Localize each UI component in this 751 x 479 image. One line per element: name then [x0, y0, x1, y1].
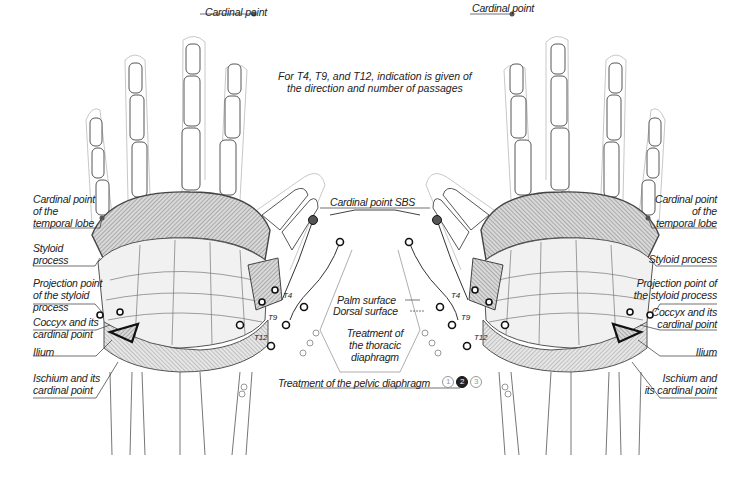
pelvic-diaphragm-label: Treatment of the pelvic diaphragm	[278, 377, 430, 389]
left-t9-label: T9	[268, 312, 277, 324]
right-temporal-lobe-dot	[646, 216, 651, 221]
step-3-badge: 3	[470, 376, 482, 388]
left-projection-label: Projection point of the styloid process	[33, 277, 102, 313]
left-temporal-lobe-dot	[100, 216, 105, 221]
left-styloid-label: Styloid process	[33, 242, 68, 266]
left-hand	[86, 36, 325, 455]
right-t4-label: T4	[451, 290, 460, 302]
diagram-canvas: For T4, T9, and T12, indication is given…	[0, 0, 751, 479]
right-ilium-label: Ilium	[696, 346, 717, 358]
right-styloid-label: Styloid process	[649, 253, 717, 265]
right-t9-label: T9	[461, 312, 470, 324]
right-coccyx-label: Coccyx and its cardinal point	[652, 306, 717, 330]
right-t12-label: T12	[474, 332, 487, 344]
left-coccyx-label: Coccyx and its cardinal point	[33, 316, 98, 340]
sbs-label: Cardinal point SBS	[330, 196, 415, 208]
right-projection-label: Projection point of the styloid process	[634, 277, 717, 301]
left-cardinal-point-label: Cardinal point	[205, 6, 267, 18]
pelvic-steps: 1 2 3	[442, 376, 482, 388]
left-temporal-lobe-label: Cardinal point of the temporal lobe	[33, 193, 95, 229]
right-ischium-label: Ischium and its cardinal point	[645, 372, 717, 396]
left-ilium-label: Ilium	[33, 346, 54, 358]
dorsal-surface-label: Dorsal surface	[333, 305, 398, 317]
step-1-badge: 1	[442, 376, 454, 388]
left-t4-label: T4	[283, 290, 292, 302]
left-ischium-label: Ischium and its cardinal point	[33, 372, 100, 396]
right-cardinal-point-label: Cardinal point	[472, 2, 534, 14]
right-temporal-lobe-label: Cardinal point of the temporal lobe	[655, 193, 717, 229]
right-hand	[426, 36, 665, 455]
instruction-note: For T4, T9, and T12, indication is given…	[278, 70, 472, 94]
sbs-point-right	[433, 216, 442, 225]
left-t12-label: T12	[254, 332, 267, 344]
sbs-point-left	[309, 216, 318, 225]
instruction-line-1: For T4, T9, and T12, indication is given…	[278, 70, 472, 82]
instruction-line-2: the direction and number of passages	[278, 82, 472, 94]
left-forearm-bones	[110, 372, 252, 455]
step-2-badge: 2	[456, 376, 468, 388]
thoracic-diaphragm-label: Treatment of the thoracic diaphragm	[340, 327, 410, 363]
